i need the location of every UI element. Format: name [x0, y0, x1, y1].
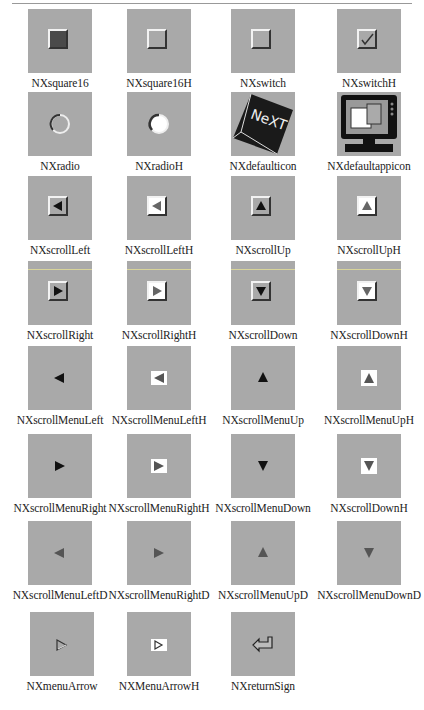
icon-label: NXdefaultappicon	[317, 160, 421, 172]
icon-cell: NXscrollMenuLeftD	[8, 521, 112, 601]
scroll-up-icon	[231, 176, 295, 240]
icon-cell: NXscrollMenuRightH	[107, 434, 211, 514]
icon-label: NXsquare16	[8, 77, 112, 89]
icon-label: NXMenuArrowH	[107, 680, 211, 692]
scroll-up-highlighted-icon	[337, 176, 401, 240]
icon-cell: NXscrollUpH	[317, 176, 421, 256]
icon-cell: NXscrollDown	[211, 261, 315, 341]
scroll-menu-up-disabled-icon	[231, 521, 295, 585]
scroll-left-highlighted-icon	[127, 176, 191, 240]
icon-label: NXsquare16H	[107, 77, 211, 89]
icon-cell: NXdefaultappicon	[317, 92, 421, 172]
next-cube-icon: NeXT	[231, 92, 295, 156]
icon-label: NXscrollMenuLeft	[8, 414, 112, 426]
scroll-down-highlighted-icon	[337, 261, 401, 325]
icon-label: NXscrollRightH	[107, 329, 211, 341]
switch-icon	[231, 9, 295, 73]
scroll-menu-right-disabled-icon	[127, 521, 191, 585]
top-rule	[12, 3, 412, 4]
icon-label: NXscrollMenuLeftH	[107, 414, 211, 426]
icon-cell: NXscrollMenuLeftH	[107, 346, 211, 426]
square16h-icon	[127, 9, 191, 73]
icon-label: NXscrollMenuRight	[8, 502, 112, 514]
scroll-menu-left-disabled-icon	[28, 521, 92, 585]
scroll-menu-down-disabled-icon	[337, 521, 401, 585]
icon-label: NXswitchH	[317, 77, 421, 89]
icon-label: NXscrollDown	[211, 329, 315, 341]
scroll-menu-left-icon	[28, 346, 92, 410]
icon-cell: NXradio	[8, 92, 112, 172]
icon-label: NXdefaulticon	[211, 160, 315, 172]
icon-cell: NXscrollMenuLeft	[8, 346, 112, 426]
switch-checked-icon	[337, 9, 401, 73]
icon-label: NXmenuArrow	[10, 680, 114, 692]
icon-cell: NXscrollDownH	[317, 261, 421, 341]
radio-icon	[28, 92, 92, 156]
icon-cell: NXscrollMenuDown	[211, 434, 315, 514]
icon-cell: NXradioH	[107, 92, 211, 172]
scroll-down-highlighted-icon	[337, 434, 401, 498]
icon-cell: NXscrollLeft	[8, 176, 112, 256]
icon-cell: NXscrollUp	[211, 176, 315, 256]
icon-cell: NXswitch	[211, 9, 315, 89]
menu-arrow-icon	[30, 612, 94, 676]
scroll-menu-up-highlighted-icon	[337, 346, 401, 410]
icon-label: NXscrollMenuDown	[211, 502, 315, 514]
icon-label: NXradio	[8, 160, 112, 172]
scroll-right-icon	[28, 261, 92, 325]
icon-label: NXswitch	[211, 77, 315, 89]
icon-label: NXscrollMenuRightD	[107, 589, 211, 601]
icon-cell: NXscrollRightH	[107, 261, 211, 341]
icon-label: NXscrollMenuRightH	[107, 502, 211, 514]
icon-cell: NXscrollLeftH	[107, 176, 211, 256]
icon-cell: NXscrollMenuDownD	[317, 521, 421, 601]
icon-cell: NXscrollMenuRightD	[107, 521, 211, 601]
icon-cell: NXsquare16	[8, 9, 112, 89]
icon-label: NXscrollMenuUpD	[211, 589, 315, 601]
icon-label: NXscrollMenuUp	[211, 414, 315, 426]
icon-label: NXradioH	[107, 160, 211, 172]
scroll-menu-right-icon	[28, 434, 92, 498]
scroll-menu-up-icon	[231, 346, 295, 410]
icon-cell: NXscrollMenuUp	[211, 346, 315, 426]
icon-label: NXscrollUp	[211, 244, 315, 256]
icon-label: NXscrollDownH	[317, 329, 421, 341]
radio-selected-icon	[127, 92, 191, 156]
icon-cell: NXreturnSign	[211, 612, 315, 692]
scroll-left-icon	[28, 176, 92, 240]
icon-label: NXscrollLeft	[8, 244, 112, 256]
icon-label: NXscrollMenuUpH	[317, 414, 421, 426]
icon-cell: NXscrollMenuUpH	[317, 346, 421, 426]
menu-arrow-highlighted-icon	[127, 612, 191, 676]
square16-icon	[28, 9, 92, 73]
icon-label: NXscrollMenuDownD	[317, 589, 421, 601]
icon-cell: NXscrollMenuRight	[8, 434, 112, 514]
icon-label: NXscrollDownH	[317, 502, 421, 514]
icon-cell: NXswitchH	[317, 9, 421, 89]
icon-label: NXscrollRight	[8, 329, 112, 341]
icon-label: NXreturnSign	[211, 680, 315, 692]
scroll-down-icon	[231, 261, 295, 325]
scroll-menu-right-highlighted-icon	[127, 434, 191, 498]
icon-cell: NXscrollRight	[8, 261, 112, 341]
icon-cell: NeXT NXdefaulticon	[211, 92, 315, 172]
icon-cell: NXscrollMenuUpD	[211, 521, 315, 601]
icon-label: NXscrollMenuLeftD	[8, 589, 112, 601]
icon-cell: NXscrollDownH	[317, 434, 421, 514]
icon-label: NXscrollUpH	[317, 244, 421, 256]
icon-cell: NXMenuArrowH	[107, 612, 211, 692]
scroll-right-highlighted-icon	[127, 261, 191, 325]
icon-cell: NXsquare16H	[107, 9, 211, 89]
scroll-menu-down-icon	[231, 434, 295, 498]
icon-label: NXscrollLeftH	[107, 244, 211, 256]
return-sign-icon	[231, 612, 295, 676]
scroll-menu-left-highlighted-icon	[127, 346, 191, 410]
default-app-icon	[337, 92, 401, 156]
icon-cell: NXmenuArrow	[10, 612, 114, 692]
